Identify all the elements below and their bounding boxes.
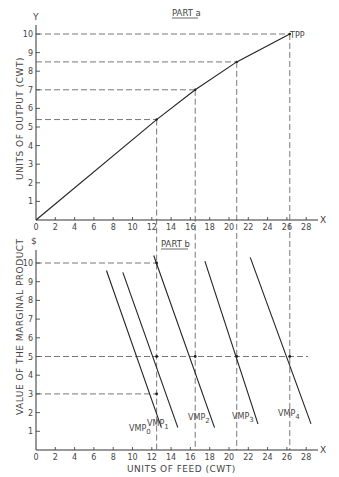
vmp-label: VMP2 bbox=[188, 413, 210, 425]
vmp-label: VMP4 bbox=[278, 409, 300, 421]
x-tick-label: 12 bbox=[147, 453, 157, 462]
part-a-chart: PART a Y X 12345678910 02468101214161820… bbox=[15, 8, 327, 450]
equilibrium-point bbox=[155, 393, 158, 396]
part-b-x-letter: X bbox=[320, 445, 327, 455]
part-a-x-ticks: 0246810121416182022242628 bbox=[33, 217, 311, 232]
part-a-y-ticks: 12345678910 bbox=[23, 30, 40, 206]
equilibrium-point bbox=[194, 355, 197, 358]
part-a-x-letter: X bbox=[320, 215, 327, 225]
equilibrium-point bbox=[155, 355, 158, 358]
x-tick-label: 18 bbox=[205, 453, 215, 462]
production-economics-figure: PART a Y X 12345678910 02468101214161820… bbox=[0, 0, 339, 477]
x-tick-label: 10 bbox=[127, 453, 137, 462]
part-b-y-ticks: 12345678910 bbox=[23, 259, 40, 436]
vmp-curve bbox=[154, 256, 215, 428]
y-tick-label: 5 bbox=[28, 123, 33, 132]
y-tick-label: 3 bbox=[28, 390, 33, 399]
y-tick-label: 9 bbox=[28, 49, 33, 58]
x-tick-label: 20 bbox=[224, 453, 234, 462]
tpp-point bbox=[194, 89, 196, 91]
tpp-point bbox=[155, 118, 157, 120]
x-tick-label: 14 bbox=[166, 453, 176, 462]
vmp-curve bbox=[123, 272, 178, 427]
x-tick-label: 16 bbox=[185, 223, 195, 232]
part-a-points bbox=[155, 33, 291, 121]
y-tick-label: 9 bbox=[28, 278, 33, 287]
equilibrium-point bbox=[235, 355, 238, 358]
y-tick-label: 1 bbox=[28, 427, 33, 436]
x-tick-label: 26 bbox=[282, 453, 292, 462]
part-b-points bbox=[155, 262, 291, 396]
part-b-y-label: VALUE OF THE MARGINAL PRODUCT bbox=[15, 238, 25, 415]
y-tick-label: 7 bbox=[28, 86, 33, 95]
x-tick-label: 28 bbox=[301, 223, 311, 232]
x-tick-label: 8 bbox=[111, 223, 116, 232]
x-tick-label: 24 bbox=[263, 453, 273, 462]
y-tick-label: 5 bbox=[28, 353, 33, 362]
y-tick-label: 10 bbox=[23, 30, 33, 39]
part-b-x-label: UNITS OF FEED (CWT) bbox=[127, 464, 236, 474]
part-b-reference-lines bbox=[36, 263, 308, 394]
x-tick-label: 22 bbox=[243, 453, 253, 462]
x-tick-label: 0 bbox=[33, 223, 38, 232]
x-tick-label: 4 bbox=[72, 223, 77, 232]
x-tick-label: 2 bbox=[53, 453, 58, 462]
x-tick-label: 2 bbox=[53, 223, 58, 232]
x-tick-label: 20 bbox=[224, 223, 234, 232]
y-tick-label: 1 bbox=[28, 197, 33, 206]
x-tick-label: 18 bbox=[205, 223, 215, 232]
y-tick-label: 4 bbox=[28, 371, 33, 380]
dollar-axis-letter: $ bbox=[31, 236, 37, 246]
equilibrium-point bbox=[155, 262, 158, 265]
y-tick-label: 6 bbox=[28, 104, 33, 113]
y-tick-label: 6 bbox=[28, 334, 33, 343]
x-tick-label: 28 bbox=[301, 453, 311, 462]
x-tick-label: 0 bbox=[33, 453, 38, 462]
x-tick-label: 6 bbox=[91, 223, 96, 232]
y-tick-label: 4 bbox=[28, 142, 33, 151]
y-tick-label: 2 bbox=[28, 409, 33, 418]
x-tick-label: 16 bbox=[185, 453, 195, 462]
tpp-label: TPP bbox=[289, 31, 305, 40]
x-tick-label: 8 bbox=[111, 453, 116, 462]
equilibrium-point bbox=[288, 355, 291, 358]
x-tick-label: 26 bbox=[282, 223, 292, 232]
vmp-curve bbox=[205, 261, 258, 424]
part-a-y-label: UNITS OF OUTPUT (CWT) bbox=[15, 57, 25, 180]
vmp-label: VMP3 bbox=[232, 412, 254, 424]
x-tick-label: 6 bbox=[91, 453, 96, 462]
x-tick-label: 10 bbox=[127, 223, 137, 232]
vmp-curve bbox=[106, 270, 161, 427]
vmp-curves bbox=[106, 256, 311, 428]
tpp-point bbox=[236, 61, 238, 63]
x-tick-label: 14 bbox=[166, 223, 176, 232]
y-tick-label: 3 bbox=[28, 160, 33, 169]
y-axis-letter: Y bbox=[32, 12, 39, 22]
x-tick-label: 12 bbox=[147, 223, 157, 232]
part-a-title: PART a bbox=[172, 8, 201, 18]
y-tick-label: 2 bbox=[28, 179, 33, 188]
x-tick-label: 22 bbox=[243, 223, 253, 232]
vmp-curve bbox=[250, 257, 311, 423]
x-tick-label: 24 bbox=[263, 223, 273, 232]
part-b-chart: $ PART b X 12345678910 02468101214161820… bbox=[15, 236, 327, 474]
y-tick-label: 7 bbox=[28, 315, 33, 324]
y-tick-label: 8 bbox=[28, 67, 33, 76]
x-tick-label: 4 bbox=[72, 453, 77, 462]
part-b-x-ticks: 0246810121416182022242628 bbox=[33, 447, 311, 462]
y-tick-label: 8 bbox=[28, 296, 33, 305]
vmp-labels: VMP0VMP1VMP2VMP3VMP4 bbox=[129, 409, 300, 436]
part-b-title: PART b bbox=[161, 239, 190, 249]
